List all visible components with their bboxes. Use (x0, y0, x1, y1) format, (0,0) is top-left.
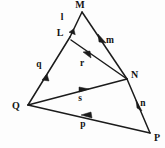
arrowhead-q-icon (42, 74, 49, 81)
vertex-label-p: P (154, 132, 160, 143)
edge-l-to-q (28, 37, 70, 105)
segment-label-p: p (80, 119, 85, 129)
segment-label-q: q (36, 59, 42, 69)
vertex-label-l: L (57, 27, 64, 38)
vector-diagram-canvas: M L Q N P l q m r s n p (0, 0, 165, 148)
segment-label-m: m (106, 35, 114, 45)
arrowhead-r-icon (83, 51, 91, 58)
edge-p-to-q (28, 105, 150, 133)
vector-diagram-figure: M L Q N P l q m r s n p (0, 0, 165, 148)
arrowhead-s-icon (79, 87, 89, 92)
segment-label-r: r (80, 58, 85, 68)
vertex-label-q: Q (12, 100, 20, 111)
vertex-label-n: N (131, 69, 139, 80)
segment-label-s: s (78, 93, 82, 103)
segment-label-n: n (140, 98, 146, 108)
segment-label-l: l (61, 12, 64, 22)
edge-m-to-n (82, 12, 127, 79)
vertex-label-m: M (75, 0, 85, 10)
arrowhead-m-icon (98, 34, 106, 43)
